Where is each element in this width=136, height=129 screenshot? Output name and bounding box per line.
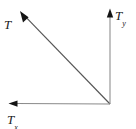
vector-label-Tx: Tx [7, 111, 18, 129]
vector-T [20, 11, 110, 104]
vector-diagram: T Ty Tx [0, 0, 136, 129]
vector-label-T: T [4, 16, 11, 35]
vector-Tx-arrowhead [9, 101, 18, 107]
vector-label-Ty: Ty [115, 7, 126, 26]
vector-Tx [9, 101, 111, 107]
vector-Ty [107, 9, 113, 105]
vector-Ty-arrowhead [107, 9, 113, 18]
vector-label-T-base: T [4, 17, 11, 32]
vector-label-Ty-subscript: y [122, 19, 126, 28]
vector-label-Tx-subscript: x [14, 123, 18, 129]
vector-T-shaft [24, 15, 110, 104]
vector-T-arrowhead [20, 11, 29, 23]
